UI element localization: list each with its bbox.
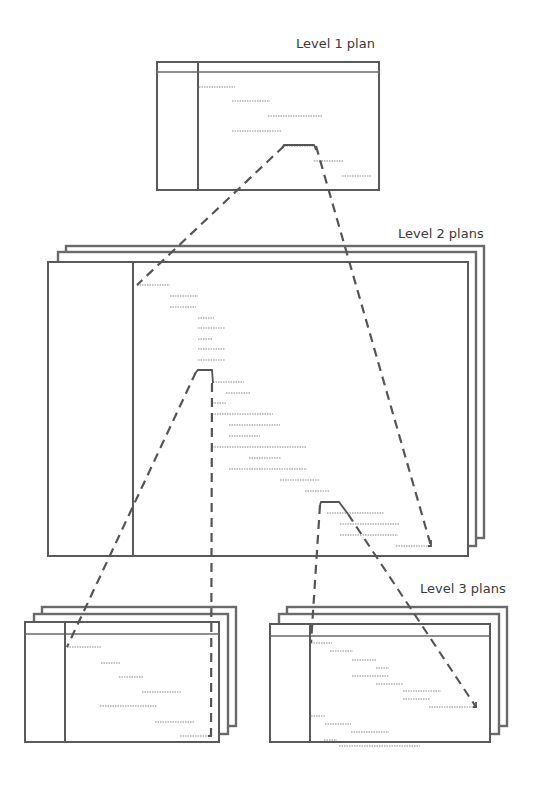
level3-label: Level 3 plans xyxy=(420,581,506,596)
level2-label: Level 2 plans xyxy=(398,226,484,241)
level3-plan-window-left xyxy=(25,622,219,742)
projection-line-l2-l3a-right xyxy=(211,383,212,736)
level3-plan-stack-right xyxy=(270,607,507,746)
level3-plan-window-right xyxy=(270,624,490,746)
plan-hierarchy-diagram: Level 1 plan Level 2 plans xyxy=(0,0,556,788)
level3-plan-stack-left xyxy=(25,607,236,742)
level1-label: Level 1 plan xyxy=(296,36,375,51)
level2-plan-window xyxy=(48,262,468,556)
level1-plan-window xyxy=(157,62,379,190)
level2-plan-stack xyxy=(48,246,484,556)
